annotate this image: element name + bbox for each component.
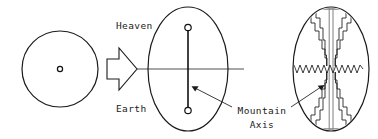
mountain-interior xyxy=(291,7,363,131)
mountain-axis-label-line2: Axis xyxy=(250,119,274,130)
cosmology-diagram: Heaven Earth Mountain Axis xyxy=(0,0,378,139)
leader-arrowhead-left xyxy=(192,86,199,91)
center-point-marker xyxy=(57,66,62,71)
leader-arrowhead-right xyxy=(318,85,325,91)
axis-top-node xyxy=(185,24,191,30)
heaven-label: Heaven xyxy=(116,20,153,31)
block-arrow-right-icon xyxy=(107,48,137,90)
panel-undifferentiated-circle xyxy=(22,31,98,107)
leader-line-left xyxy=(195,88,232,107)
panel-stepped-mountain-ellipse xyxy=(291,7,369,131)
diagram-canvas: Heaven Earth Mountain Axis xyxy=(0,0,378,139)
transition-block-arrow xyxy=(107,48,137,90)
axis-bottom-node xyxy=(185,107,191,113)
earth-label: Earth xyxy=(116,103,147,114)
mountain-axis-label-line1: Mountain xyxy=(238,105,287,116)
wavy-horizon-line xyxy=(291,65,363,73)
